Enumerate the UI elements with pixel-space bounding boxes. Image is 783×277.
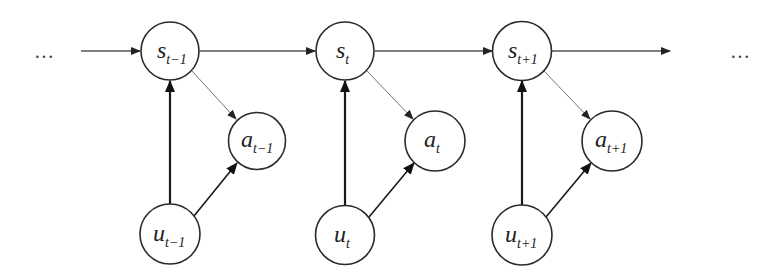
- node-a-t: at: [405, 111, 465, 171]
- node-a-tp1: at+1: [582, 111, 642, 171]
- node-u-tp1: ut+1: [492, 205, 552, 265]
- node-s-tm1: st−1: [141, 22, 199, 80]
- edge-s-to-a-tm1: [192, 71, 236, 119]
- node-u-tm1: ut−1: [140, 204, 200, 264]
- node-s-tp1: st+1: [493, 22, 552, 81]
- edge-s-to-a-t: [367, 71, 413, 119]
- node-a-tm1: at−1: [229, 113, 286, 170]
- dbn-diagram: … … st−1 at−1 ut−1 st at ut s: [0, 0, 783, 277]
- edge-u-to-a-tp1: [546, 163, 591, 217]
- edge-s-to-a-tp1: [544, 71, 590, 119]
- node-u-t: ut: [316, 206, 375, 265]
- edge-u-to-a-t: [369, 163, 414, 217]
- ellipsis-left: …: [34, 40, 54, 62]
- edge-u-to-a-tm1: [194, 163, 237, 216]
- node-s-t: st: [316, 22, 374, 80]
- ellipsis-right: …: [730, 40, 750, 62]
